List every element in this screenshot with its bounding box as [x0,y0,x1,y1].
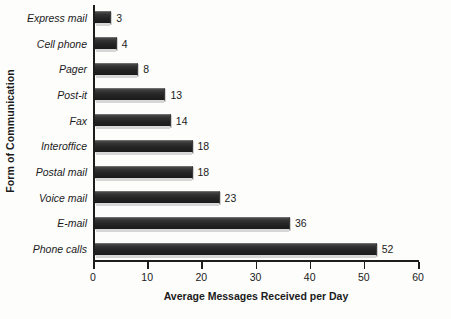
category-label: Postal mail [5,159,93,185]
category-label: Fax [5,108,93,134]
category-label: Phone calls [5,236,93,262]
plot-area: 348131418182336520102030405060 [93,5,419,262]
bar-row: 52 [95,236,393,262]
bar-row: 23 [95,185,236,211]
bar-row: 14 [95,108,188,134]
bar-row: 8 [95,56,149,82]
category-label: Interoffice [5,134,93,160]
bar-value-label: 18 [198,166,210,178]
category-label: Express mail [5,5,93,31]
bar-value-label: 4 [122,38,128,50]
x-axis-tick-label: 0 [90,271,96,283]
bar [95,63,138,76]
x-axis-tick-label: 40 [304,271,316,283]
x-axis-tick-label: 60 [412,271,424,283]
bar [95,11,111,24]
bar [95,243,377,256]
x-axis-tick [364,262,366,269]
bar-value-label: 13 [170,89,182,101]
x-axis-tick [147,262,149,269]
bar-value-label: 14 [176,115,188,127]
bar-value-label: 8 [143,63,149,75]
bar-row: 3 [95,5,122,31]
bar-value-label: 18 [198,140,210,152]
x-axis-tick [201,262,203,269]
x-axis-tick-label: 30 [250,271,262,283]
x-axis-tick-label: 20 [195,271,207,283]
category-label: Voice mail [5,185,93,211]
bar-value-label: 3 [116,12,122,24]
bar-row: 36 [95,211,307,237]
category-label: Cell phone [5,31,93,57]
bar-value-label: 23 [225,192,237,204]
bar [95,37,117,50]
bar-value-label: 52 [382,243,394,255]
bar-row: 13 [95,82,182,108]
x-axis-tick [93,262,95,269]
bar [95,114,171,127]
bar-row: 4 [95,31,128,57]
bar [95,217,290,230]
bar-row: 18 [95,134,209,160]
category-label-column: Express mailCell phonePagerPost-itFaxInt… [0,5,93,262]
bar-row: 18 [95,159,209,185]
x-axis-tick [256,262,258,269]
bar [95,140,193,153]
x-axis-tick-label: 50 [358,271,370,283]
category-label: Post-it [5,82,93,108]
x-axis-tick [418,262,420,269]
bar-chart: Form of Communication Express mailCell p… [0,0,451,319]
category-label: Pager [5,56,93,82]
bar-value-label: 36 [295,217,307,229]
bar [95,166,193,179]
x-axis-tick-label: 10 [141,271,153,283]
x-axis-title: Average Messages Received per Day [93,290,419,302]
category-label: E-mail [5,211,93,237]
x-axis-tick [310,262,312,269]
bar [95,88,165,101]
bar [95,191,220,204]
